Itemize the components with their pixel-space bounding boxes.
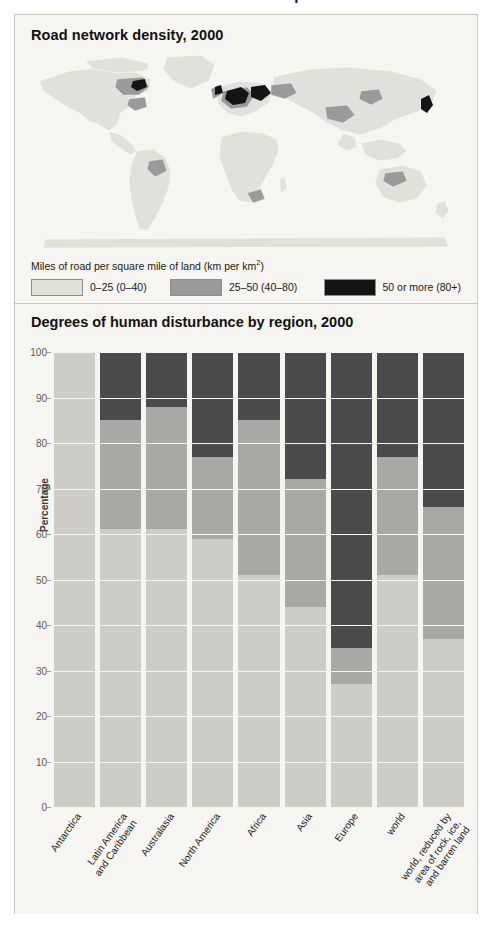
x-axis-label: Europe xyxy=(333,811,361,844)
y-axis-tick-mark xyxy=(47,807,51,808)
bar-segment-human-dominated[interactable] xyxy=(331,352,372,648)
x-axis-label-cell: Asia xyxy=(285,809,326,909)
y-axis-tick-label: 30 xyxy=(36,665,47,676)
y-axis-tick-label: 10 xyxy=(36,756,47,767)
world-map xyxy=(25,51,469,251)
map-legend: Miles of road per square mile of land (k… xyxy=(31,258,461,296)
y-axis-tick-label: 50 xyxy=(36,574,47,585)
bar-segment-undisturbed[interactable] xyxy=(238,575,279,807)
map-landmasses xyxy=(39,55,449,248)
cut-off-header-strip: world of environment impacts xyxy=(0,0,492,14)
bar-segment-partially-disturbed[interactable] xyxy=(331,648,372,684)
world-map-svg xyxy=(25,51,469,251)
chart-plot-area: Percentage 0102030405060708090100 xyxy=(51,352,467,807)
x-axis-label: world xyxy=(384,811,407,837)
chart-title: Degrees of human disturbance by region, … xyxy=(31,314,353,330)
map-legend-swatch-low xyxy=(31,279,83,296)
map-legend-label-low: 0–25 (0–40) xyxy=(90,281,147,293)
bar-column[interactable] xyxy=(192,352,233,807)
bar-segment-human-dominated[interactable] xyxy=(285,352,326,479)
bar-segment-undisturbed[interactable] xyxy=(54,352,95,807)
y-axis-tick-label: 90 xyxy=(36,392,47,403)
bar-segment-human-dominated[interactable] xyxy=(100,352,141,420)
figure-panel: Road network density, 2000 xyxy=(14,14,478,914)
map-section: Road network density, 2000 xyxy=(15,15,477,297)
bar-column[interactable] xyxy=(285,352,326,807)
x-axis-label-line: Australasia xyxy=(138,811,175,858)
map-legend-swatch-high xyxy=(324,279,376,296)
bar-segment-partially-disturbed[interactable] xyxy=(377,457,418,575)
bar-column[interactable] xyxy=(146,352,187,807)
cut-off-header-text: world of environment impacts xyxy=(120,0,333,3)
x-axis-label-cell: Europe xyxy=(331,809,372,909)
x-axis-label-line: Africa xyxy=(244,811,268,838)
bar-segment-partially-disturbed[interactable] xyxy=(238,420,279,575)
bar-column[interactable] xyxy=(377,352,418,807)
bar-segment-human-dominated[interactable] xyxy=(423,352,464,507)
x-axis-label-line: Antarctica xyxy=(49,811,84,854)
bar-segment-undisturbed[interactable] xyxy=(377,575,418,807)
x-axis-label: Asia xyxy=(294,811,315,834)
map-legend-swatch-mid xyxy=(170,279,222,296)
bar-segment-human-dominated[interactable] xyxy=(192,352,233,457)
y-axis-tick-label: 20 xyxy=(36,711,47,722)
screenshot-root: world of environment impacts Road networ… xyxy=(0,0,492,927)
map-legend-entry-low: 0–25 (0–40) xyxy=(31,279,147,296)
bar-segment-undisturbed[interactable] xyxy=(192,539,233,807)
bar-segment-undisturbed[interactable] xyxy=(423,639,464,807)
bar-segment-partially-disturbed[interactable] xyxy=(192,457,233,539)
x-axis-labels: AntarcticaLatin Americaand CaribbeanAust… xyxy=(51,809,467,909)
bar-segment-partially-disturbed[interactable] xyxy=(285,479,326,606)
x-axis-label-cell: North America xyxy=(192,809,233,909)
x-axis-label-line: Europe xyxy=(333,811,361,844)
x-axis-label-cell: Latin Americaand Caribbean xyxy=(100,809,141,909)
map-legend-caption-text: Miles of road per square mile of land (k… xyxy=(31,260,256,272)
y-axis-tick-label: 100 xyxy=(30,347,47,358)
bar-group xyxy=(51,352,467,807)
bar-segment-human-dominated[interactable] xyxy=(146,352,187,407)
map-legend-row: 0–25 (0–40) 25–50 (40–80) 50 or more (80… xyxy=(31,279,461,296)
bar-segment-undisturbed[interactable] xyxy=(331,684,372,807)
chart-section: Degrees of human disturbance by region, … xyxy=(15,304,477,914)
map-legend-entry-mid: 25–50 (40–80) xyxy=(170,279,297,296)
bar-segment-undisturbed[interactable] xyxy=(285,607,326,807)
x-axis-label: Antarctica xyxy=(49,811,84,854)
x-axis-label: Australasia xyxy=(138,811,176,858)
x-axis-label-line: world xyxy=(384,811,407,837)
map-legend-entry-high: 50 or more (80+) xyxy=(324,279,462,296)
bar-segment-undisturbed[interactable] xyxy=(100,529,141,807)
bar-segment-partially-disturbed[interactable] xyxy=(100,420,141,529)
bar-column[interactable] xyxy=(54,352,95,807)
y-axis-tick-label: 70 xyxy=(36,483,47,494)
y-axis-tick-label: 40 xyxy=(36,620,47,631)
map-legend-caption: Miles of road per square mile of land (k… xyxy=(31,258,461,272)
map-title: Road network density, 2000 xyxy=(31,27,224,43)
y-axis-tick-label: 80 xyxy=(36,438,47,449)
bar-segment-partially-disturbed[interactable] xyxy=(423,507,464,639)
bar-column[interactable] xyxy=(423,352,464,807)
x-axis-label: Africa xyxy=(244,811,268,839)
map-legend-caption-tail: ) xyxy=(260,260,264,272)
bar-column[interactable] xyxy=(331,352,372,807)
bar-segment-human-dominated[interactable] xyxy=(238,352,279,420)
x-axis-label-cell: world, reduced byarea of rock, ice,and b… xyxy=(423,809,464,909)
y-axis-tick-label: 60 xyxy=(36,529,47,540)
bar-segment-undisturbed[interactable] xyxy=(146,529,187,807)
bar-column[interactable] xyxy=(100,352,141,807)
bar-segment-human-dominated[interactable] xyxy=(377,352,418,457)
x-axis-label-line: Asia xyxy=(294,811,314,833)
map-legend-label-high: 50 or more (80+) xyxy=(383,281,462,293)
x-axis-label-cell: Africa xyxy=(238,809,279,909)
map-legend-label-mid: 25–50 (40–80) xyxy=(229,281,297,293)
bar-segment-partially-disturbed[interactable] xyxy=(146,407,187,530)
bar-column[interactable] xyxy=(238,352,279,807)
